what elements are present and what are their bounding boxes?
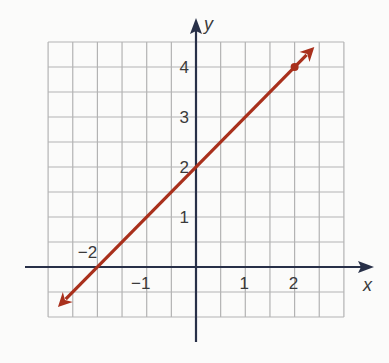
marked-point — [291, 63, 299, 71]
y-tick-label: 3 — [180, 108, 189, 127]
x-tick-label: 2 — [289, 274, 298, 293]
coordinate-plane: x y −2−1121234 — [0, 0, 389, 363]
x-tick-label: 1 — [240, 274, 249, 293]
x-axis-title: x — [362, 275, 373, 295]
y-tick-label: 1 — [180, 208, 189, 227]
y-axis-title: y — [202, 14, 214, 34]
x-tick-label: −1 — [131, 274, 150, 293]
y-tick-label: 4 — [180, 58, 189, 77]
x-tick-label: −2 — [78, 243, 97, 262]
axes: x y — [25, 14, 374, 342]
